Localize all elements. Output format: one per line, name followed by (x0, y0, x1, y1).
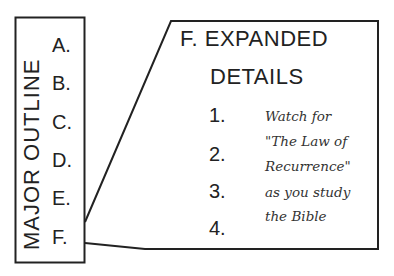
outline-item-c: C. (52, 111, 72, 134)
outline-item-a: A. (52, 34, 71, 57)
note-line-1: Watch for (265, 108, 331, 124)
outline-item-e: E. (52, 187, 71, 210)
outline-item-b: B. (52, 72, 71, 95)
outline-item-d: D. (52, 149, 72, 172)
detail-number-1: 1. (209, 104, 226, 127)
detail-number-4: 4. (209, 217, 226, 240)
major-outline-title: MAJOR OUTLINE (19, 59, 45, 250)
note-line-4: as you study (265, 184, 350, 200)
expanded-heading-line2: DETAILS (210, 64, 304, 90)
note-line-5: the Bible (265, 208, 327, 224)
note-line-2: "The Law of (265, 133, 347, 149)
note-line-3: Recurrence" (265, 158, 351, 174)
detail-number-3: 3. (209, 180, 226, 203)
outline-item-f: F. (52, 226, 68, 249)
detail-number-2: 2. (209, 143, 226, 166)
expanded-heading-line1: F. EXPANDED (180, 26, 328, 52)
